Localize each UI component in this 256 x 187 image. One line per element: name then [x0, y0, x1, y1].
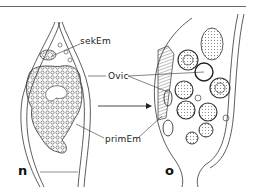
panel-letter-n: n	[18, 164, 27, 177]
figure: sekEm Ovic primEm n o	[0, 0, 256, 187]
panel-o-drawing	[154, 14, 244, 187]
panel-letter-o: o	[165, 164, 174, 177]
diagram-drawing	[0, 0, 256, 187]
panel-n-drawing	[21, 22, 91, 187]
label-ovic: Ovic	[108, 72, 129, 81]
label-sekem: sekEm	[80, 37, 111, 46]
transition-arrow	[98, 103, 152, 109]
label-primem: primEm	[105, 135, 141, 144]
